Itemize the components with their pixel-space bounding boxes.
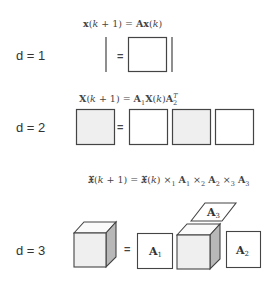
equals-sign: =	[117, 121, 123, 133]
matrix-A	[129, 38, 167, 72]
matrix-A1	[130, 110, 168, 145]
matrix-X-rhs	[173, 110, 211, 145]
matrix-A2T	[216, 110, 254, 145]
tensor-X-rhs	[177, 224, 220, 269]
matrix-A1: A1	[138, 234, 173, 269]
equals-sign: =	[117, 50, 123, 62]
tensor-X-lhs	[74, 222, 116, 267]
matrix-A3: A3	[191, 203, 236, 221]
equals-sign: =	[124, 243, 130, 255]
matrix-A2: A2	[227, 232, 261, 268]
diagram-canvas: = = = A1 A3	[0, 0, 271, 281]
d1-diagram: =	[106, 37, 172, 72]
d3-diagram: = A1 A3 A2	[74, 203, 261, 269]
matrix-X-lhs	[77, 110, 115, 145]
d2-diagram: =	[77, 110, 254, 145]
